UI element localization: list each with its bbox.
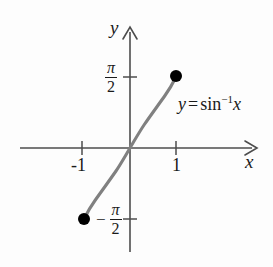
upper-endpoint-dot (170, 70, 182, 82)
x-tick-label-minus-1: -1 (71, 156, 86, 174)
equation-operator: = (186, 94, 200, 114)
fraction-numerator: π (109, 202, 123, 219)
equation-function-name: sin (200, 94, 221, 114)
fraction-pi-over-2: π 2 (104, 60, 118, 95)
curve-equation-label: y=sin−1x (178, 94, 241, 113)
fraction-denominator: 2 (109, 220, 123, 237)
minus-sign: − (96, 211, 106, 228)
equation-argument: x (233, 94, 241, 114)
plot-canvas (0, 0, 273, 267)
equation-lhs: y (178, 94, 186, 114)
y-tick-label-negative-pi-over-2: − π 2 (96, 202, 123, 237)
fraction-pi-over-2-negative: π 2 (109, 202, 123, 237)
lower-endpoint-dot (78, 213, 90, 225)
y-axis-label: y (110, 18, 118, 37)
equation-exponent: −1 (221, 93, 233, 105)
fraction-denominator: 2 (104, 78, 118, 95)
arcsin-graph-figure: y x -1 1 π 2 − π 2 y=sin−1x (0, 0, 273, 267)
x-tick-label-1: 1 (172, 156, 181, 174)
signed-fraction: − π 2 (96, 202, 123, 237)
fraction-numerator: π (104, 60, 118, 77)
x-axis-label: x (245, 152, 253, 171)
y-tick-label-pi-over-2: π 2 (104, 60, 118, 95)
